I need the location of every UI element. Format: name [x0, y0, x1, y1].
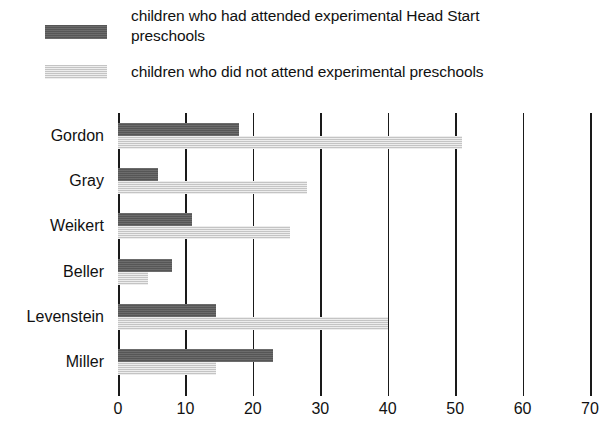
y-axis-label-beller: Beller — [63, 263, 104, 281]
x-tick-label-40: 40 — [379, 400, 397, 418]
bar-gray-series1 — [118, 168, 158, 181]
plot-grid-and-bars — [118, 113, 590, 385]
y-axis-label-weikert: Weikert — [50, 217, 104, 235]
legend-swatch-attended-icon — [45, 25, 107, 39]
bar-levenstein-series2 — [118, 317, 388, 330]
gridline-40 — [388, 113, 390, 385]
bar-miller-series2 — [118, 362, 216, 375]
x-tick-label-0: 0 — [114, 400, 123, 418]
x-tick-label-60: 60 — [514, 400, 532, 418]
x-axis: 010203040506070 — [118, 385, 590, 435]
x-tick-mark-70 — [590, 385, 592, 396]
bar-beller-series1 — [118, 259, 172, 272]
x-tick-label-70: 70 — [581, 400, 599, 418]
y-axis-label-gordon: Gordon — [51, 127, 104, 145]
legend-label-not-attended: children who did not attend experimental… — [131, 62, 483, 82]
bar-levenstein-series1 — [118, 304, 216, 317]
legend-item-not-attended: children who did not attend experimental… — [45, 62, 483, 82]
x-tick-label-30: 30 — [311, 400, 329, 418]
legend-label-attended: children who had attended experimental H… — [131, 6, 479, 46]
bar-weikert-series2 — [118, 226, 290, 239]
x-tick-mark-10 — [185, 385, 187, 396]
x-tick-mark-40 — [388, 385, 390, 396]
gridline-50 — [455, 113, 457, 385]
bar-gray-series2 — [118, 181, 307, 194]
legend-item-attended: children who had attended experimental H… — [45, 6, 479, 46]
x-tick-label-10: 10 — [177, 400, 195, 418]
legend-swatch-not-attended-icon — [45, 65, 107, 79]
gridline-30 — [320, 113, 322, 385]
x-tick-mark-60 — [523, 385, 525, 396]
bar-gordon-series2 — [118, 136, 462, 149]
gridline-70 — [590, 113, 592, 385]
bar-miller-series1 — [118, 349, 273, 362]
y-axis-category-labels: GordonGrayWeikertBellerLevensteinMiller — [0, 105, 112, 385]
bar-weikert-series1 — [118, 213, 192, 226]
x-tick-label-50: 50 — [446, 400, 464, 418]
gridline-60 — [523, 113, 525, 385]
x-tick-mark-0 — [118, 385, 120, 396]
x-tick-label-20: 20 — [244, 400, 262, 418]
gridline-20 — [253, 113, 255, 385]
y-axis-label-miller: Miller — [66, 353, 104, 371]
gridline-10 — [185, 113, 187, 385]
bar-beller-series2 — [118, 272, 148, 285]
bar-chart-plot: GordonGrayWeikertBellerLevensteinMiller … — [0, 105, 613, 442]
chart-legend: children who had attended experimental H… — [0, 0, 613, 96]
x-tick-mark-30 — [320, 385, 322, 396]
bar-gordon-series1 — [118, 123, 239, 136]
x-tick-mark-20 — [253, 385, 255, 396]
y-axis-label-levenstein: Levenstein — [27, 308, 104, 326]
x-tick-mark-50 — [455, 385, 457, 396]
y-axis-label-gray: Gray — [69, 172, 104, 190]
